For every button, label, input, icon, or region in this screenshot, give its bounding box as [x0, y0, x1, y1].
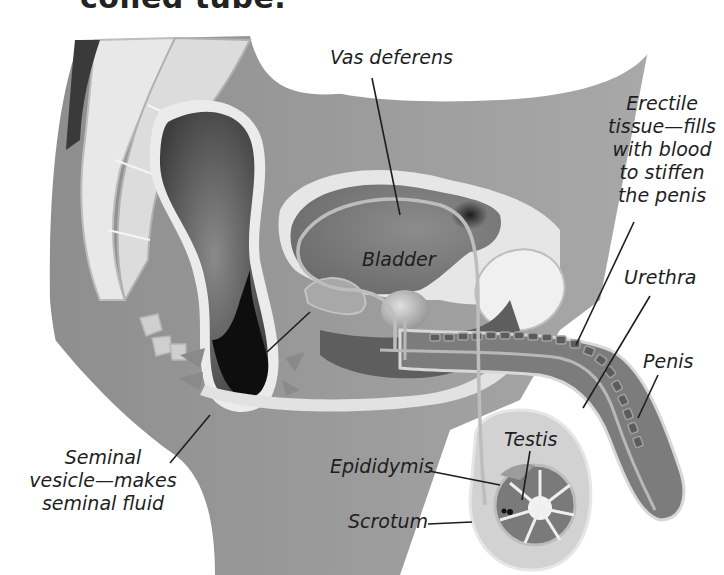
label-erectile-tissue-line: the penis	[600, 184, 724, 207]
label-erectile-tissue-line: with blood	[600, 138, 724, 161]
label-vas-deferens: Vas deferens	[330, 46, 453, 69]
label-erectile-tissue-line: tissue—fills	[600, 115, 724, 138]
label-erectile-tissue-line: to stiffen	[600, 161, 724, 184]
label-seminal-vesicle-line: vesicle—makes	[18, 469, 188, 492]
label-seminal-vesicle-line: seminal fluid	[18, 492, 188, 515]
label-penis: Penis	[643, 350, 693, 373]
testis-dot	[502, 509, 507, 514]
label-testis: Testis	[504, 428, 557, 451]
label-epididymis: Epididymis	[330, 455, 434, 478]
label-erectile-tissue-line: Erectile	[600, 92, 724, 115]
testis-dot	[507, 509, 513, 515]
leader-scrotum	[428, 522, 472, 524]
label-bladder: Bladder	[362, 248, 436, 271]
label-seminal-vesicle: Seminal vesicle—makes seminal fluid	[18, 446, 188, 515]
label-seminal-vesicle-line: Seminal	[18, 446, 188, 469]
label-urethra: Urethra	[624, 266, 696, 289]
label-scrotum: Scrotum	[348, 510, 428, 533]
label-erectile-tissue: Erectile tissue—fills with blood to stif…	[600, 92, 724, 207]
